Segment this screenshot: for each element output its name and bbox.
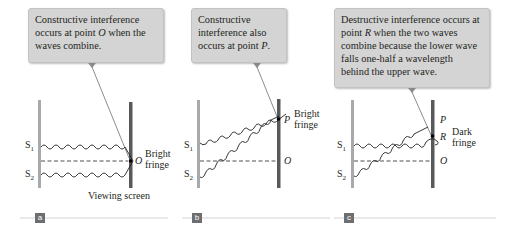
label-s1-a: S1 — [25, 139, 34, 155]
label-p-b: P — [284, 114, 290, 125]
label-s2-a: S2 — [25, 168, 34, 184]
label-fringe-b: Brightfringe — [294, 108, 320, 130]
label-s1-c: S1 — [337, 139, 346, 155]
label-o-c: O — [440, 155, 447, 166]
barrier-c — [351, 100, 354, 188]
panel-c-diagram — [351, 100, 438, 188]
label-p-c: P — [440, 114, 446, 125]
label-fringe-a: Brightfringe — [145, 148, 171, 170]
label-o-b: O — [284, 155, 291, 166]
panel-b-diagram — [197, 99, 286, 188]
interference-diagram — [0, 0, 512, 236]
screen-a — [129, 102, 133, 188]
barrier-a — [38, 100, 41, 188]
barrier-b — [197, 100, 200, 188]
label-fringe-c: Darkfringe — [452, 126, 476, 148]
screen-b — [277, 99, 281, 188]
label-viewing-screen: Viewing screen — [88, 190, 150, 201]
label-r-c: R — [440, 131, 446, 142]
panel-tag-c: c — [344, 213, 354, 223]
label-s1-b: S1 — [184, 139, 193, 155]
panel-tag-a: a — [35, 213, 45, 223]
panel-a-diagram — [38, 100, 133, 188]
label-s2-c: S2 — [337, 168, 346, 184]
label-s2-b: S2 — [184, 168, 193, 184]
label-o-a: O — [135, 155, 142, 166]
panel-tag-b: b — [192, 213, 202, 223]
screen-c — [431, 100, 435, 188]
